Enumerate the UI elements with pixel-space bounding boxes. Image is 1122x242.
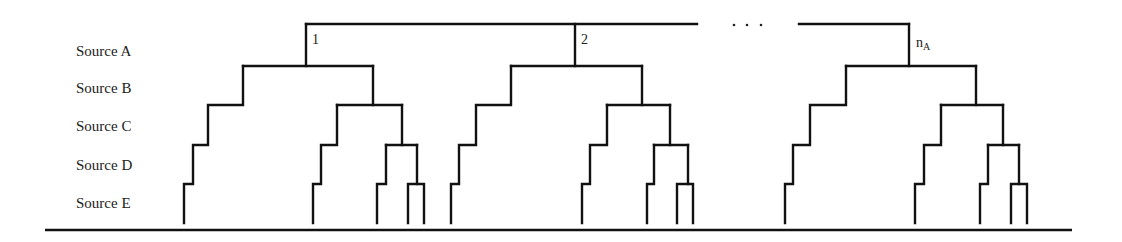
source-tree <box>785 24 1027 223</box>
row-label-source-e: Source E <box>76 196 131 211</box>
row-label-source-c: Source C <box>76 119 131 134</box>
source-tree <box>451 24 693 223</box>
d-left-staircase <box>647 145 654 223</box>
row-label-source-b: Source B <box>76 81 131 96</box>
c-left-staircase <box>915 105 941 223</box>
row-label-source-a: Source A <box>76 44 131 59</box>
tree-label-1: 1 <box>312 33 319 49</box>
d-left-staircase <box>377 145 386 223</box>
row-label-source-d: Source D <box>76 158 132 173</box>
bar-e-leaves <box>677 184 693 223</box>
ellipsis-dots <box>733 24 763 27</box>
tree-label-n-a: nA <box>916 36 930 52</box>
bar-e-leaves <box>408 184 424 223</box>
left-staircase <box>184 66 243 223</box>
tree-label-2: 2 <box>581 33 588 49</box>
ellipsis-dot <box>746 24 749 27</box>
left-staircase <box>785 66 846 223</box>
source-trees <box>184 24 1027 223</box>
d-left-staircase <box>980 145 988 223</box>
ellipsis-dot <box>733 24 736 27</box>
tree-canvas <box>0 0 1122 242</box>
bar-e-leaves <box>1011 184 1027 223</box>
left-staircase <box>451 66 511 223</box>
source-tree <box>184 24 424 223</box>
c-left-staircase <box>582 105 607 223</box>
ellipsis-dot <box>760 24 763 27</box>
c-left-staircase <box>313 105 337 223</box>
